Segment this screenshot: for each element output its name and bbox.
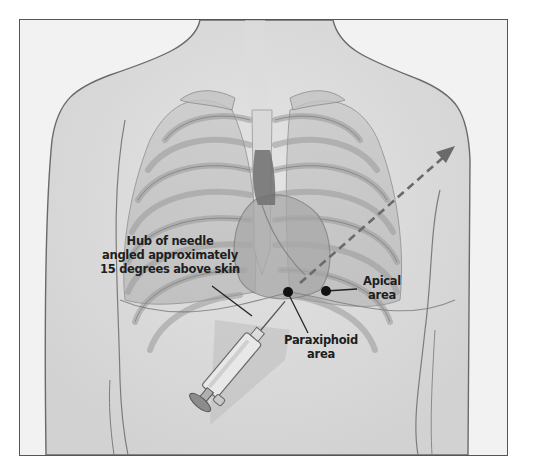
paraxiphoid-annotation-line-2: area: [276, 347, 366, 361]
hub-annotation-line-1: Hub of needle: [95, 234, 245, 248]
apical-annotation-line-2: area: [352, 288, 412, 302]
apical-marker: [321, 286, 331, 296]
hub-annotation-line-3: 15 degrees above skin: [95, 262, 245, 276]
paraxiphoid-annotation: Paraxiphoid area: [276, 333, 366, 361]
apical-annotation: Apical area: [352, 274, 412, 302]
paraxiphoid-annotation-line-1: Paraxiphoid: [276, 333, 366, 347]
apical-annotation-line-1: Apical: [352, 274, 412, 288]
pericardiocentesis-illustration: [0, 0, 537, 471]
hub-annotation: Hub of needle angled approximately 15 de…: [95, 234, 245, 276]
paraxiphoid-marker: [283, 287, 293, 297]
hub-annotation-line-2: angled approximately: [95, 248, 245, 262]
